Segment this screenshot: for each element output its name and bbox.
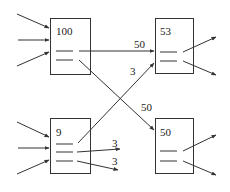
incoming-arrow (17, 14, 49, 28)
edge-label-100-50: 50 (141, 101, 153, 113)
edge-label-9-53: 3 (130, 65, 136, 77)
node-value-9: 9 (56, 126, 62, 138)
edge-label-9-out-1: 3 (112, 137, 118, 149)
incoming-arrow (17, 52, 49, 66)
edge-label-100-53: 50 (134, 38, 146, 50)
edge-label-9-out-2: 3 (112, 155, 118, 167)
incoming-arrow (17, 160, 49, 174)
diagram-canvas: 100 53 9 50 50 50 3 3 3 (0, 0, 230, 192)
flow-diagram: 100 53 9 50 50 50 3 3 3 (0, 0, 230, 192)
node-value-50: 50 (160, 126, 172, 138)
incoming-arrow (17, 122, 49, 137)
node-value-53: 53 (160, 25, 172, 37)
node-value-100: 100 (56, 25, 73, 37)
